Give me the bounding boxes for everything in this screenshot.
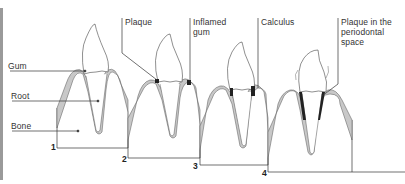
label-inflamed-gum-line1: Inflamed — [193, 18, 226, 27]
stage-number-2: 2 — [122, 154, 127, 164]
tooth-2 — [128, 34, 200, 140]
stage-4-frame — [268, 158, 405, 172]
stage-number-3: 3 — [193, 161, 198, 171]
calculus-deposit — [251, 86, 255, 96]
label-gum: Gum — [8, 62, 27, 71]
crown-tooth-2 — [155, 34, 182, 82]
label-calculus: Calculus — [261, 18, 294, 27]
label-root: Root — [11, 92, 29, 101]
crown-tooth-1 — [82, 24, 108, 74]
label-plaque-perio-line1: Plaque in the — [341, 18, 392, 27]
crown-tooth-3 — [227, 42, 254, 90]
plaque-leader-line — [122, 18, 157, 80]
label-plaque: Plaque — [125, 18, 152, 27]
label-plaque-perio-line2: periodontal — [341, 28, 384, 37]
tooth-4 — [268, 50, 352, 158]
crown-tooth-4 — [299, 50, 327, 92]
tooth-1 — [57, 24, 128, 134]
calculus-deposit-left — [230, 88, 233, 96]
label-bone: Bone — [11, 122, 31, 131]
inflamed-gum-deposit — [187, 80, 191, 85]
label-plaque-perio-line3: space — [341, 38, 364, 47]
stage-3-frame — [200, 132, 268, 165]
label-inflamed-gum-line2: gum — [193, 28, 210, 37]
stage-number-4: 4 — [262, 168, 267, 178]
stage-number-1: 1 — [51, 142, 56, 152]
stage-2-frame — [128, 124, 200, 158]
